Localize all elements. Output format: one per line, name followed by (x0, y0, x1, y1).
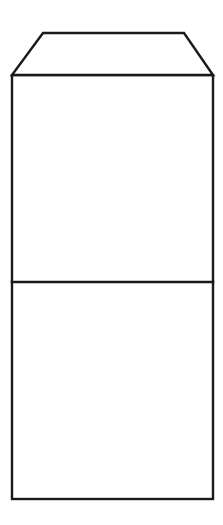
envelope-body-rect (12, 75, 213, 499)
top-flap-polygon (12, 33, 213, 75)
envelope-diagram (0, 0, 223, 525)
figure-canvas (0, 0, 223, 525)
